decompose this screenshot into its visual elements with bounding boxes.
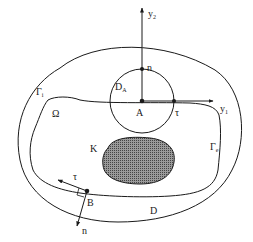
label-n-top: n bbox=[147, 62, 152, 73]
label-D: D bbox=[150, 205, 157, 216]
label-tau-left: τ bbox=[73, 171, 77, 182]
label-A: A bbox=[136, 107, 144, 118]
domain-diagram: y2 y1 n DA A τ Γi Ω K Γe τ B D n bbox=[0, 0, 253, 242]
label-gamma-e: Γe bbox=[210, 141, 219, 153]
label-tau-right: τ bbox=[175, 107, 179, 118]
point-tau-right bbox=[172, 99, 176, 103]
diagram-svg: y2 y1 n DA A τ Γi Ω K Γe τ B D n bbox=[0, 0, 253, 242]
point-n-top bbox=[140, 67, 144, 71]
label-DA: DA bbox=[115, 81, 127, 93]
outer-domain-boundary bbox=[18, 47, 241, 222]
point-A bbox=[140, 99, 145, 104]
obstacle-K bbox=[103, 137, 175, 184]
label-y2: y2 bbox=[148, 8, 156, 20]
label-K: K bbox=[90, 143, 98, 154]
label-omega: Ω bbox=[52, 108, 59, 119]
label-gamma-i: Γi bbox=[36, 86, 44, 98]
label-n-bottom: n bbox=[82, 225, 87, 236]
label-B: B bbox=[87, 197, 94, 208]
label-y1: y1 bbox=[220, 103, 228, 115]
